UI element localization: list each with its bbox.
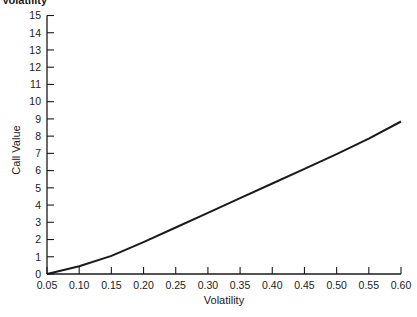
x-tick-label: 0.40 — [262, 279, 283, 291]
y-axis: 0123456789101112131415 — [29, 9, 54, 280]
x-tick-label: 0.60 — [391, 279, 412, 291]
x-tick-label: 0.25 — [166, 279, 187, 291]
x-tick-label: 0.10 — [69, 279, 90, 291]
y-tick-label: 14 — [29, 27, 41, 39]
y-tick-label: 3 — [35, 216, 41, 228]
y-tick-label: 5 — [35, 182, 41, 194]
x-tick-label: 0.05 — [37, 279, 58, 291]
x-tick-label: 0.55 — [359, 279, 380, 291]
y-axis-label: Call Value — [10, 125, 22, 174]
x-tick-label: 0.50 — [326, 279, 347, 291]
y-tick-label: 11 — [30, 78, 41, 90]
y-tick-label: 6 — [35, 164, 41, 176]
y-tick-label: 9 — [35, 113, 41, 125]
x-axis-label: Volatility — [204, 294, 245, 306]
y-tick-label: 0 — [35, 268, 41, 280]
y-tick-label: 15 — [29, 9, 41, 21]
call-value-chart: Volatility 0123456789101112131415 0.050.… — [0, 0, 417, 317]
y-tick-label: 1 — [35, 251, 41, 263]
x-tick-label: 0.30 — [198, 279, 219, 291]
y-tick-label: 8 — [35, 130, 41, 142]
clipped-title: Volatility — [2, 0, 48, 6]
y-tick-label: 13 — [29, 44, 41, 56]
y-tick-label: 10 — [29, 95, 41, 107]
series-call-value — [47, 122, 401, 275]
x-tick-label: 0.15 — [101, 279, 122, 291]
y-tick-label: 7 — [35, 147, 41, 159]
x-tick-label: 0.35 — [230, 279, 251, 291]
x-tick-label: 0.20 — [133, 279, 154, 291]
y-tick-label: 4 — [35, 199, 41, 211]
x-axis: 0.050.100.150.200.250.300.350.400.450.50… — [37, 267, 412, 291]
call-value-line — [47, 122, 401, 275]
y-tick-label: 12 — [29, 61, 41, 73]
x-tick-label: 0.45 — [294, 279, 315, 291]
y-tick-label: 2 — [35, 233, 41, 245]
